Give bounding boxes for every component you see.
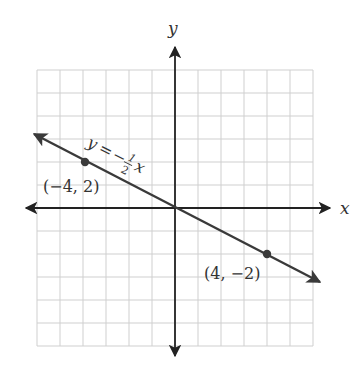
point-4-neg2 — [263, 250, 271, 258]
coordinate-plane: x y (−4, 2) (4, −2) y = − 1 2 x — [0, 0, 358, 365]
x-axis-label: x — [340, 198, 350, 218]
point-neg4-2 — [81, 158, 89, 166]
point-label-a: (−4, 2) — [43, 177, 99, 196]
point-label-b: (4, −2) — [204, 264, 260, 283]
y-axis-label: y — [167, 18, 178, 38]
